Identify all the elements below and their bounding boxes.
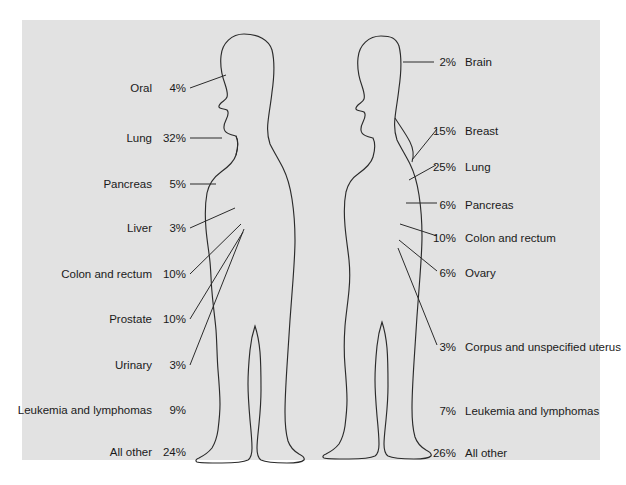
label-pct-uterus: 3% bbox=[439, 341, 456, 354]
label-name-oral: Oral bbox=[130, 82, 152, 95]
label-pct-colon: 10% bbox=[163, 268, 186, 281]
label-pct-lung-f: 25% bbox=[433, 161, 456, 174]
label-name-pancreas: Pancreas bbox=[103, 178, 152, 191]
label-pct-leukemia: 9% bbox=[169, 404, 186, 417]
leader-liver bbox=[190, 208, 235, 228]
label-pct-urinary: 3% bbox=[169, 359, 186, 372]
label-name-all-other-f: All other bbox=[465, 447, 507, 460]
leader-ovary bbox=[399, 240, 437, 271]
label-pct-colon-f: 10% bbox=[433, 232, 456, 245]
label-name-urinary: Urinary bbox=[115, 359, 152, 372]
male-leader-lines bbox=[190, 75, 244, 365]
leader-oral bbox=[190, 75, 226, 88]
label-name-all-other: All other bbox=[110, 446, 152, 459]
label-pct-brain: 2% bbox=[439, 56, 456, 69]
label-pct-breast: 15% bbox=[433, 125, 456, 138]
label-name-leukemia-f: Leukemia and lymphomas bbox=[465, 405, 599, 418]
label-pct-pancreas: 5% bbox=[169, 178, 186, 191]
label-name-colon-f: Colon and rectum bbox=[465, 232, 556, 245]
label-name-breast: Breast bbox=[465, 125, 498, 138]
label-pct-lung: 32% bbox=[163, 132, 186, 145]
female-silhouette bbox=[323, 34, 491, 465]
leader-uterus bbox=[398, 248, 437, 345]
breast-contour bbox=[395, 118, 413, 162]
leader-colon-f bbox=[400, 224, 437, 236]
label-name-lung-f: Lung bbox=[465, 161, 491, 174]
label-name-uterus: Corpus and unspecified uterus bbox=[465, 341, 621, 354]
label-name-prostate: Prostate bbox=[109, 313, 152, 326]
leader-colon bbox=[190, 224, 241, 274]
infographic-root: Oral 4% Lung 32% Pancreas 5% Liver 3% Co… bbox=[0, 0, 626, 485]
label-name-liver: Liver bbox=[127, 222, 152, 235]
male-body-outline bbox=[196, 34, 304, 463]
label-name-ovary: Ovary bbox=[465, 267, 496, 280]
leader-prostate bbox=[190, 232, 243, 319]
label-name-brain: Brain bbox=[465, 56, 492, 69]
female-body-outline bbox=[323, 36, 431, 459]
label-pct-all-other-f: 26% bbox=[433, 447, 456, 460]
label-pct-pancreas-f: 6% bbox=[439, 199, 456, 212]
label-pct-all-other: 24% bbox=[163, 446, 186, 459]
label-pct-liver: 3% bbox=[169, 222, 186, 235]
label-pct-oral: 4% bbox=[169, 82, 186, 95]
label-pct-prostate: 10% bbox=[163, 313, 186, 326]
label-name-pancreas-f: Pancreas bbox=[465, 199, 514, 212]
label-pct-leukemia-f: 7% bbox=[439, 405, 456, 418]
label-name-leukemia: Leukemia and lymphomas bbox=[18, 404, 152, 417]
label-pct-ovary: 6% bbox=[439, 267, 456, 280]
male-silhouette bbox=[196, 34, 304, 463]
label-name-lung: Lung bbox=[126, 132, 152, 145]
label-name-colon: Colon and rectum bbox=[61, 268, 152, 281]
